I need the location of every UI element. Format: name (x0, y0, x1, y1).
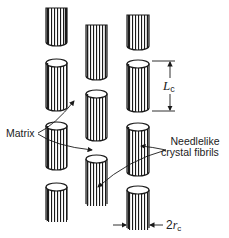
fibril-stub-bottom (86, 155, 107, 206)
fibril-column-left (46, 8, 67, 222)
fibril-cylinder (127, 60, 149, 112)
length-dimension: Lc (152, 61, 175, 111)
fibril-column-right (127, 15, 149, 230)
fibrils-label-line2: crystal fibrils (161, 146, 219, 158)
fibril-stub-top (86, 25, 107, 80)
length-label: Lc (162, 78, 175, 94)
fibrils-callout: Needlelike crystal fibrils (98, 135, 220, 187)
fibril-stub-top (46, 8, 67, 46)
fibril-cylinder (46, 59, 67, 111)
fibril-cylinder (127, 123, 149, 176)
fibril-stub-top (127, 15, 149, 50)
fibril-stub-bottom (127, 186, 149, 230)
fibril-stub-bottom (46, 183, 67, 222)
matrix-label: Matrix (6, 127, 35, 139)
fibril-cylinder (46, 122, 67, 170)
radius-label: 2rc (166, 218, 181, 233)
fibril-column-middle (86, 25, 107, 206)
fibril-cylinder (86, 90, 107, 141)
fiber-composite-diagram: Lc 2rc Matrix Needlelike crystal fibrils (0, 0, 229, 238)
